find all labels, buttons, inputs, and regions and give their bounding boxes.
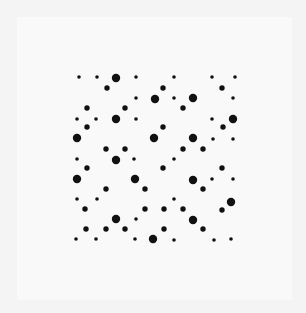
dot bbox=[132, 157, 136, 161]
dot bbox=[134, 96, 138, 100]
dot bbox=[84, 165, 89, 170]
dot bbox=[103, 186, 108, 191]
dot bbox=[74, 237, 78, 241]
dot bbox=[172, 96, 176, 100]
dot bbox=[82, 206, 87, 211]
dot bbox=[172, 197, 176, 201]
dot bbox=[94, 237, 98, 241]
dot bbox=[220, 124, 225, 129]
dot bbox=[149, 235, 157, 243]
dot bbox=[210, 75, 214, 79]
dot bbox=[103, 226, 108, 231]
dot bbox=[233, 75, 237, 79]
dot bbox=[84, 105, 89, 110]
dot bbox=[131, 175, 139, 183]
dot bbox=[94, 117, 98, 121]
dot bbox=[161, 226, 166, 231]
dot bbox=[180, 146, 185, 151]
dot bbox=[229, 237, 233, 241]
dot bbox=[160, 165, 165, 170]
dot bbox=[189, 134, 197, 142]
dot bbox=[189, 94, 197, 102]
dot bbox=[73, 134, 81, 142]
dot bbox=[219, 85, 224, 90]
dot bbox=[200, 146, 205, 151]
dot bbox=[112, 156, 120, 164]
dot-pattern bbox=[0, 0, 306, 313]
dot bbox=[75, 117, 79, 121]
dot bbox=[200, 226, 205, 231]
dot bbox=[212, 238, 216, 242]
dot bbox=[134, 117, 138, 121]
dot bbox=[84, 124, 89, 129]
dot bbox=[210, 177, 214, 181]
dot bbox=[231, 177, 235, 181]
dot bbox=[77, 75, 81, 79]
dot bbox=[231, 137, 235, 141]
dot bbox=[160, 85, 165, 90]
dot bbox=[172, 75, 176, 79]
dot bbox=[189, 216, 197, 224]
dot bbox=[180, 105, 185, 110]
dot bbox=[104, 85, 109, 90]
dot bbox=[112, 74, 120, 82]
dot bbox=[133, 237, 137, 241]
dot bbox=[151, 95, 159, 103]
dot bbox=[150, 134, 158, 142]
dot bbox=[219, 165, 224, 170]
dot bbox=[73, 175, 81, 183]
dot bbox=[95, 75, 99, 79]
dot bbox=[134, 217, 138, 221]
dot bbox=[122, 105, 127, 110]
dot bbox=[112, 215, 120, 223]
dot bbox=[172, 238, 176, 242]
dot bbox=[142, 206, 147, 211]
dot bbox=[122, 146, 127, 151]
dot bbox=[134, 75, 138, 79]
dot bbox=[227, 198, 235, 206]
dot bbox=[210, 117, 214, 121]
dot bbox=[103, 146, 108, 151]
dot bbox=[160, 124, 165, 129]
dot bbox=[211, 137, 215, 141]
dot bbox=[142, 186, 147, 191]
dot bbox=[122, 226, 127, 231]
dot bbox=[75, 197, 79, 201]
dot bbox=[75, 157, 79, 161]
dot bbox=[189, 176, 197, 184]
dot bbox=[180, 206, 185, 211]
dot bbox=[200, 186, 205, 191]
dot bbox=[161, 206, 166, 211]
dot bbox=[219, 207, 224, 212]
dot bbox=[229, 115, 237, 123]
dot bbox=[95, 197, 99, 201]
dot bbox=[112, 115, 120, 123]
dot bbox=[172, 157, 176, 161]
dot bbox=[83, 226, 88, 231]
dot bbox=[231, 96, 235, 100]
